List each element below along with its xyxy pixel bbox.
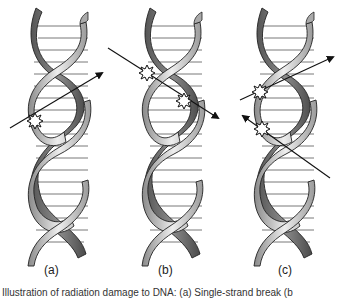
panel-c-break-burst-icon-1 (252, 84, 268, 100)
panel-c-break-burst-icon-2 (254, 121, 270, 137)
panel-c-radiation-arrow-2 (243, 116, 330, 178)
panel-b-break-burst-icon-2 (176, 93, 192, 109)
panel-a-helix (28, 8, 91, 266)
panel-a-label: (a) (44, 263, 59, 277)
panel-c-helix (254, 8, 317, 266)
panel-c-radiation-arrow-1 (240, 57, 333, 100)
panel-b-helix (142, 8, 205, 266)
panel-b-break-burst-icon-1 (139, 65, 155, 81)
panel-c-label: (c) (278, 263, 292, 277)
panel-b-label: (b) (158, 263, 173, 277)
panel-b-radiation-arrow (108, 48, 218, 118)
panel-a-break-burst-icon (27, 113, 43, 129)
figure-caption: Illustration of radiation damage to DNA:… (2, 287, 293, 298)
